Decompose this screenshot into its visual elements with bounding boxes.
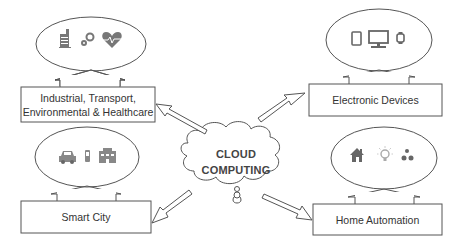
industrial-label-line2: Environmental & Healthcare — [23, 105, 154, 119]
industrial-callout-bubble — [36, 17, 146, 87]
industrial-label-line1: Industrial, Transport, — [40, 91, 136, 105]
cloud-label: CLOUD COMPUTING — [196, 146, 276, 178]
cloud-label-line1: CLOUD — [196, 146, 276, 162]
cloud-label-line2: COMPUTING — [196, 162, 276, 178]
arrow-to-smart-city — [152, 190, 192, 223]
electronic-label: Electronic Devices — [309, 84, 442, 116]
user-icon — [233, 187, 241, 204]
home-label: Home Automation — [313, 204, 442, 235]
smart-city-label: Smart City — [21, 201, 151, 233]
arrow-to-home — [262, 194, 312, 220]
home-callout-bubble — [331, 127, 437, 204]
phone-icon — [85, 150, 90, 162]
arrow-to-industrial — [156, 104, 207, 134]
smart-city-callout-bubble — [35, 127, 139, 201]
cloud-computing-diagram: .s{fill:#fff;stroke:#555;stroke-width:1;… — [0, 0, 461, 248]
industrial-label: Industrial, Transport, Environmental & H… — [21, 87, 155, 122]
arrow-to-electronic — [258, 93, 305, 122]
